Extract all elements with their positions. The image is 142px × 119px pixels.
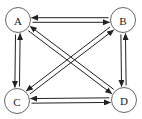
node-label: C — [13, 96, 20, 108]
edge-c-to-a — [19, 34, 20, 87]
node-a: A — [6, 8, 31, 33]
graph-canvas: ABCD — [0, 0, 142, 119]
edge-c-to-b — [30, 30, 114, 94]
node-c: C — [5, 89, 30, 114]
edges — [15, 18, 126, 103]
node-label: B — [119, 15, 126, 27]
node-label: D — [120, 95, 128, 107]
edge-b-to-d — [121, 35, 122, 87]
edge-b-to-c — [26, 27, 110, 91]
edge-d-to-a — [30, 26, 114, 89]
edge-c-to-d — [32, 102, 111, 103]
edge-a-to-d — [28, 31, 112, 94]
edge-d-to-b — [125, 33, 126, 85]
node-label: A — [14, 15, 22, 27]
node-d: D — [112, 88, 137, 113]
edge-a-to-c — [15, 34, 16, 87]
nodes: ABCD — [5, 8, 137, 114]
node-b: B — [111, 8, 136, 33]
edge-d-to-c — [30, 98, 109, 99]
graph-diagram: ABCD — [0, 0, 142, 119]
